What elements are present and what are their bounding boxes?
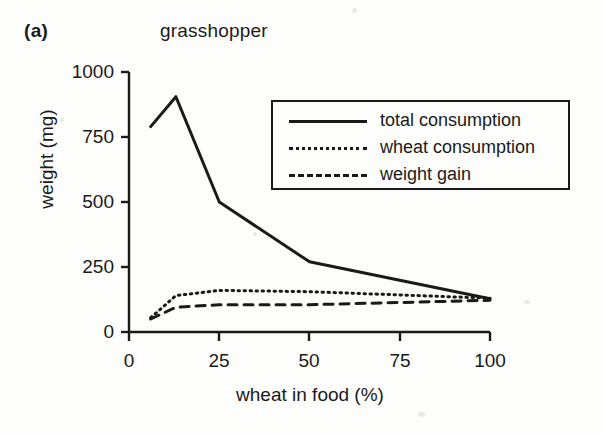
legend-item-wheat-consumption: wheat consumption <box>289 133 535 161</box>
series-line-weight-gain <box>151 300 490 319</box>
legend-solid-line-icon <box>289 113 367 127</box>
legend-item-weight-gain: weight gain <box>289 160 471 188</box>
chart-legend: total consumption wheat consumption weig… <box>271 100 570 190</box>
legend-dotted-line-icon <box>289 140 367 154</box>
plot-area <box>0 0 605 434</box>
legend-label-weight-gain: weight gain <box>380 164 471 185</box>
legend-label-total-consumption: total consumption <box>380 110 521 131</box>
legend-dashed-line-icon <box>289 167 367 181</box>
legend-label-wheat-consumption: wheat consumption <box>380 137 535 158</box>
series-line-wheat-consumption <box>151 290 490 317</box>
legend-item-total-consumption: total consumption <box>289 106 521 134</box>
figure-panel: (a) grasshopper weight (mg) wheat in foo… <box>0 0 605 434</box>
